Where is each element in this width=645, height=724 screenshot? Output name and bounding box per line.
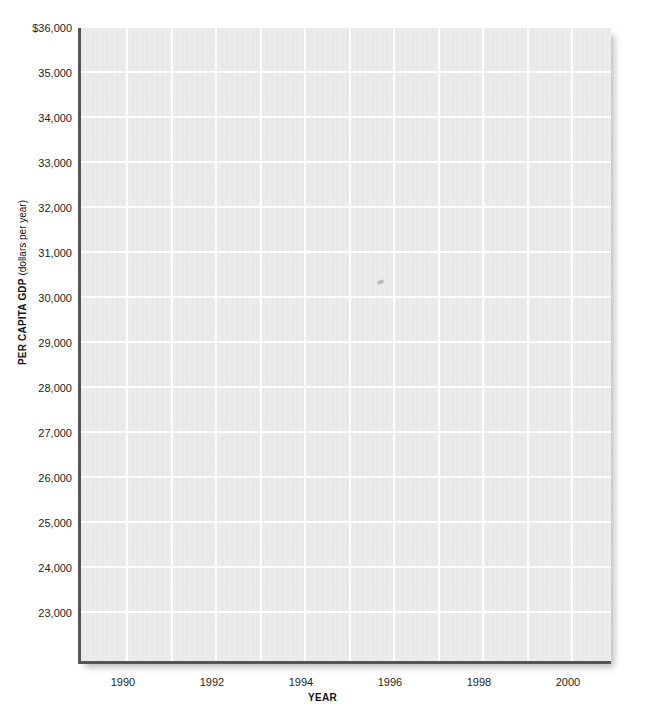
y-tick-label: $36,000 — [2, 23, 72, 34]
gridline-horizontal — [81, 71, 611, 73]
y-axis-title-bold: PER CAPITA GDP — [17, 278, 28, 365]
y-axis-title-units: (dollars per year) — [17, 200, 28, 278]
y-tick-label: 28,000 — [2, 383, 72, 394]
gridline-vertical — [126, 28, 128, 661]
gridline-vertical — [171, 28, 173, 661]
y-axis-tick-labels: $36,000 35,000 34,000 33,000 32,000 31,0… — [0, 0, 72, 724]
y-tick-label: 32,000 — [2, 203, 72, 214]
gridline-vertical — [482, 28, 484, 661]
x-tick-label: 1996 — [350, 676, 430, 688]
gridline-horizontal — [81, 341, 611, 343]
y-tick-label: 25,000 — [2, 518, 72, 529]
x-tick-label: 1998 — [439, 676, 519, 688]
y-tick-label: 31,000 — [2, 248, 72, 259]
y-axis-title: PER CAPITA GDP (dollars per year) — [17, 183, 28, 383]
gridline-vertical — [304, 28, 306, 661]
x-tick-label: 2000 — [528, 676, 608, 688]
gridline-horizontal — [81, 116, 611, 118]
y-tick-label: 29,000 — [2, 338, 72, 349]
scan-artifact-smudge — [377, 279, 385, 285]
y-tick-label: 26,000 — [2, 473, 72, 484]
gridline-horizontal — [81, 206, 611, 208]
gridline-horizontal — [81, 476, 611, 478]
chart-figure: $36,000 35,000 34,000 33,000 32,000 31,0… — [0, 0, 645, 724]
y-tick-label: 24,000 — [2, 563, 72, 574]
y-tick-label: 34,000 — [2, 113, 72, 124]
gridline-vertical — [527, 28, 529, 661]
gridline-horizontal — [81, 611, 611, 613]
gridline-vertical — [438, 28, 440, 661]
gridline-vertical — [393, 28, 395, 661]
y-tick-label: 27,000 — [2, 428, 72, 439]
x-tick-label: 1992 — [172, 676, 252, 688]
gridline-horizontal — [81, 521, 611, 523]
gridline-horizontal — [81, 431, 611, 433]
x-tick-label: 1994 — [261, 676, 341, 688]
plot-area — [78, 28, 611, 664]
y-tick-label: 35,000 — [2, 68, 72, 79]
gridline-vertical — [215, 28, 217, 661]
gridline-horizontal — [81, 161, 611, 163]
y-tick-label: 23,000 — [2, 608, 72, 619]
x-tick-label: 1990 — [83, 676, 163, 688]
y-tick-label: 33,000 — [2, 158, 72, 169]
gridline-horizontal — [81, 386, 611, 388]
y-tick-label: 30,000 — [2, 293, 72, 304]
gridline-vertical — [349, 28, 351, 661]
gridline-vertical — [571, 28, 573, 661]
gridline-vertical — [260, 28, 262, 661]
gridline-horizontal — [81, 566, 611, 568]
gridline-horizontal — [81, 296, 611, 298]
gridline-horizontal — [81, 251, 611, 253]
x-axis-title: YEAR — [0, 692, 645, 703]
